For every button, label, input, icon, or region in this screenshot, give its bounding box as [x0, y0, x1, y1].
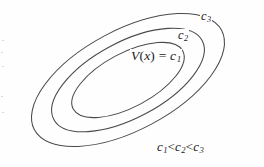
level-symbol-c3: c	[201, 9, 207, 23]
contour-group	[11, 0, 245, 167]
outer-contour-label: c3	[200, 10, 212, 25]
contour-ellipse-c1	[61, 27, 196, 133]
level-index-1: 1	[176, 54, 181, 64]
contour-ellipse-c3	[11, 0, 245, 167]
lyapunov-level-set-figure: V(x) = c1 c2 c3 c1<c2<c3	[0, 0, 264, 167]
level-index-3: 3	[207, 15, 212, 24]
ordering-c3-index: 3	[199, 145, 204, 155]
level-ordering-caption: c1<c2<c3	[156, 140, 205, 155]
equals-sign: =	[155, 48, 170, 63]
ordering-c1: c	[157, 139, 163, 154]
middle-contour-label: c2	[177, 29, 189, 44]
less-than-sign-1: <	[168, 139, 175, 154]
contour-plot-canvas	[0, 0, 264, 167]
inner-contour-label: V(x) = c1	[130, 49, 182, 64]
level-symbol-c2: c	[178, 28, 184, 42]
level-index-2: 2	[184, 34, 189, 43]
contour-ellipse-c2	[36, 7, 220, 153]
